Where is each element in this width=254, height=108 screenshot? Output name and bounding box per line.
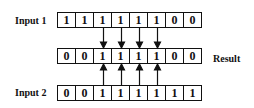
arrows-layer bbox=[0, 0, 254, 108]
up-arrow-icon bbox=[155, 64, 161, 85]
down-arrow-icon bbox=[137, 28, 143, 48]
down-arrow-icon bbox=[101, 28, 107, 48]
up-arrow-icon bbox=[101, 64, 107, 85]
down-arrow-icon bbox=[155, 28, 161, 48]
down-arrow-icon bbox=[119, 28, 125, 48]
up-arrow-icon bbox=[137, 64, 143, 85]
up-arrow-icon bbox=[119, 64, 125, 85]
